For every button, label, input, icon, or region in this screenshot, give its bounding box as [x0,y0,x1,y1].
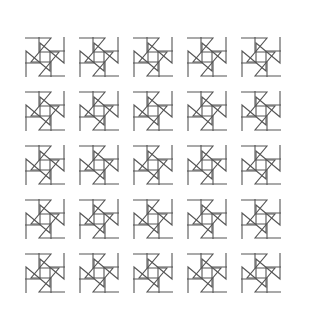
artboard [0,0,319,331]
pinwheel-tessellation-figure [0,0,319,331]
